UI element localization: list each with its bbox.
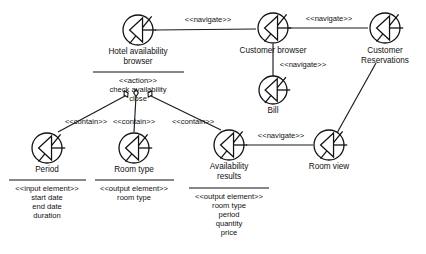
node-room-type[interactable]: Room type<<output element>>room type <box>95 133 174 202</box>
web-page-icon <box>258 13 291 43</box>
uml-navigation-diagram: Hotel availabilitybrowser<<action>>check… <box>0 0 426 254</box>
node-customer-browser[interactable]: Customer browser <box>240 13 307 55</box>
node-availability-results[interactable]: Availabilityresults<<output element>>roo… <box>189 130 269 237</box>
web-page-icon <box>370 13 403 43</box>
web-page-icon <box>119 133 152 163</box>
edge-label-contain-room-type: <<contain>> <box>113 117 156 126</box>
node-attribute-availability-results: price <box>221 228 237 237</box>
edges-layer <box>58 28 376 145</box>
node-attribute-hotel-availability-browser: close <box>129 94 147 103</box>
web-page-icon <box>314 130 347 160</box>
edge-labels-layer: <<navigate>><<navigate>><<navigate>><<na… <box>65 14 353 140</box>
edge-label-contain-period: <<contain>> <box>65 117 108 126</box>
node-title-hotel-availability-browser: Hotel availability <box>108 47 168 56</box>
edge-reservations-to-room-view <box>337 63 376 133</box>
node-attribute-period: end date <box>32 202 62 211</box>
diagram-canvas: Hotel availabilitybrowser<<action>>check… <box>0 0 426 254</box>
node-attribute-hotel-availability-browser: check availability <box>110 85 167 94</box>
node-title-room-type: Room type <box>114 165 154 174</box>
web-page-icon <box>123 15 156 45</box>
node-title-customer-reservations: Reservations <box>361 56 409 65</box>
node-bill[interactable]: Bill <box>259 76 290 115</box>
edge-label-customer-browser-to-bill: <<navigate>> <box>280 60 327 69</box>
node-attribute-room-type: room type <box>117 193 151 202</box>
edge-label-hotel-to-customer-browser: <<navigate>> <box>185 15 232 24</box>
web-page-icon <box>259 76 290 104</box>
edge-contain-period <box>58 96 125 132</box>
node-attribute-availability-results: room type <box>212 201 246 210</box>
node-title-room-view: Room view <box>309 162 350 171</box>
node-title-customer-browser: Customer browser <box>240 46 307 55</box>
node-stereotype-period: <<input element>> <box>15 184 79 193</box>
node-title-hotel-availability-browser: browser <box>123 57 152 66</box>
node-stereotype-availability-results: <<output element>> <box>195 192 264 201</box>
edge-hotel-to-customer-browser <box>155 29 256 30</box>
node-title-period: Period <box>35 165 59 174</box>
node-period[interactable]: Period<<input element>>start dateend dat… <box>9 133 86 220</box>
node-attribute-availability-results: period <box>218 210 239 219</box>
edge-label-customer-browser-to-reservations: <<navigate>> <box>306 14 353 23</box>
node-stereotype-room-type: <<output element>> <box>100 184 169 193</box>
node-attribute-availability-results: quantity <box>216 219 243 228</box>
node-title-customer-reservations: Customer <box>367 46 403 55</box>
node-attribute-period: duration <box>33 211 60 220</box>
node-title-availability-results: results <box>217 172 241 181</box>
node-stereotype-hotel-availability-browser: <<action>> <box>119 76 158 85</box>
web-page-icon <box>214 130 247 160</box>
node-title-bill: Bill <box>268 106 279 115</box>
node-hotel-availability-browser[interactable]: Hotel availabilitybrowser<<action>>check… <box>93 15 184 103</box>
edge-label-contain-availability-results: <<contain>> <box>172 117 215 126</box>
edge-label-availability-to-room-view: <<navigate>> <box>258 131 305 140</box>
node-customer-reservations[interactable]: CustomerReservations <box>361 13 409 65</box>
node-room-view[interactable]: Room view <box>309 130 350 171</box>
web-page-icon <box>32 133 65 163</box>
node-attribute-period: start date <box>31 193 63 202</box>
node-title-availability-results: Availability <box>210 162 249 171</box>
